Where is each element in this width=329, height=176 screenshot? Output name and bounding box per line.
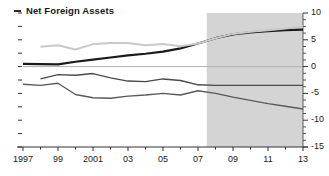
x-axis-tick-label: 07 [184, 155, 212, 164]
x-axis-tick-label: 99 [44, 155, 72, 164]
x-axis-tick-label: 13 [289, 155, 317, 164]
net-foreign-assets-chart: Net Foreign Assets 1050-5-10-15199799200… [0, 0, 329, 176]
x-axis-tick-label: 2001 [79, 155, 107, 164]
plot-area [0, 0, 329, 176]
y-axis-tick-label: 0 [311, 62, 316, 71]
y-axis-tick-label: -5 [311, 88, 319, 97]
y-axis-tick-label: -10 [311, 115, 324, 124]
x-axis-tick-label: 03 [114, 155, 142, 164]
x-axis-tick-label: 1997 [9, 155, 37, 164]
y-axis-tick-label: 5 [311, 35, 316, 44]
y-axis-tick-label: 10 [311, 8, 321, 17]
x-axis-tick-label: 09 [219, 155, 247, 164]
x-axis-tick-label: 05 [149, 155, 177, 164]
y-axis-tick-label: -15 [311, 142, 324, 151]
x-axis-tick-label: 11 [254, 155, 282, 164]
